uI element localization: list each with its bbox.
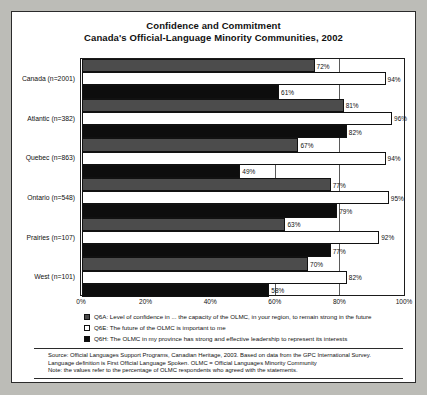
bar-row: 96% <box>82 112 403 125</box>
x-axis-tick-labels: 0%20%40%60%80%100% <box>80 298 405 310</box>
bar-row: 77% <box>82 178 403 191</box>
bar-row: 79% <box>82 204 403 217</box>
bar-value-label: 63% <box>285 221 300 228</box>
bar-row: 77% <box>82 244 403 257</box>
bar-value-label: 58% <box>269 287 284 294</box>
chart-card: Confidence and Commitment Canada's Offic… <box>11 11 416 383</box>
bar-row: 67% <box>82 138 403 151</box>
x-axis-tick-5: 100% <box>396 298 413 305</box>
footnote-block: Source: Official Languages Support Progr… <box>34 348 403 379</box>
y-axis-label-1: Atlantic (n=382) <box>27 114 75 121</box>
x-axis-tick-3: 60% <box>268 298 281 305</box>
bar-q6e-2 <box>82 152 386 165</box>
bar-value-label: 92% <box>379 234 394 241</box>
footnote-source: Source: Official Languages Support Progr… <box>48 352 403 360</box>
bar-q6e-4 <box>82 231 379 244</box>
bar-row: 82% <box>82 271 403 284</box>
footnote-note: Note: the values refer to the percentage… <box>48 367 403 375</box>
bar-q6h-2 <box>82 165 240 178</box>
bar-value-label: 82% <box>347 274 362 281</box>
legend-item-q6e: Q6E: The future of the OLMC is important… <box>84 323 404 333</box>
bar-q6h-4 <box>82 244 331 257</box>
x-axis-tick-2: 40% <box>204 298 217 305</box>
bar-value-label: 77% <box>331 181 346 188</box>
chart-legend: Q6A: Level of confidence in ... the capa… <box>84 312 404 345</box>
bar-row: 58% <box>82 284 403 297</box>
legend-item-q6a: Q6A: Level of confidence in ... the capa… <box>84 312 404 322</box>
bar-group: 63%92%77% <box>82 218 403 258</box>
bar-q6a-2 <box>82 138 298 151</box>
bar-row: 63% <box>82 218 403 231</box>
footnote-definition: Language definition is First Official La… <box>48 360 403 368</box>
legend-label: Q6E: The future of the OLMC is important… <box>94 324 226 331</box>
bar-value-label: 94% <box>386 75 401 82</box>
scanned-page: Confidence and Commitment Canada's Offic… <box>0 0 427 395</box>
bar-q6h-3 <box>82 204 337 217</box>
bar-q6a-3 <box>82 178 331 191</box>
plot-frame: 72%94%61%81%96%82%67%94%49%77%95%79%63%9… <box>80 58 405 296</box>
bar-q6a-4 <box>82 218 285 231</box>
bar-row: 70% <box>82 257 403 270</box>
bar-row: 92% <box>82 231 403 244</box>
page-title: Confidence and Commitment Canada's Offic… <box>12 12 415 44</box>
y-axis-label-2: Quebec (n=863) <box>26 154 75 161</box>
bar-group: 70%82%58% <box>82 257 403 297</box>
bar-row: 49% <box>82 165 403 178</box>
bar-row: 94% <box>82 72 403 85</box>
bar-value-label: 94% <box>386 155 401 162</box>
y-axis-label-5: West (n=101) <box>34 273 75 280</box>
bar-value-label: 81% <box>344 102 359 109</box>
legend-label: Q6A: Level of confidence in ... the capa… <box>94 313 372 320</box>
x-axis-tick-4: 80% <box>333 298 346 305</box>
chart-title-line-2: Canada's Official-Language Minority Comm… <box>12 32 415 44</box>
bar-row: 81% <box>82 99 403 112</box>
bar-value-label: 72% <box>315 62 330 69</box>
bar-value-label: 82% <box>347 128 362 135</box>
bar-group: 77%95%79% <box>82 178 403 218</box>
bar-group: 67%94%49% <box>82 138 403 178</box>
y-axis-label-4: Prairies (n=107) <box>26 233 75 240</box>
y-axis-category-labels: Canada (n=2001)Atlantic (n=382)Quebec (n… <box>12 58 78 296</box>
bar-q6h-1 <box>82 125 347 138</box>
legend-label: Q6H: The OLMC in my province has strong … <box>94 335 347 342</box>
bar-q6a-5 <box>82 257 308 270</box>
legend-swatch-icon <box>84 314 90 320</box>
bar-q6h-0 <box>82 85 279 98</box>
legend-swatch-icon <box>84 336 90 342</box>
bar-value-label: 96% <box>392 115 407 122</box>
bar-group: 81%96%82% <box>82 99 403 139</box>
bar-value-label: 70% <box>308 260 323 267</box>
bar-group: 72%94%61% <box>82 59 403 99</box>
chart-title-line-1: Confidence and Commitment <box>12 20 415 32</box>
bar-row: 94% <box>82 152 403 165</box>
legend-item-q6h: Q6H: The OLMC in my province has strong … <box>84 334 404 344</box>
bar-value-label: 61% <box>279 89 294 96</box>
x-axis-tick-1: 20% <box>139 298 152 305</box>
bar-q6a-0 <box>82 59 315 72</box>
bar-row: 61% <box>82 85 403 98</box>
bar-value-label: 77% <box>331 247 346 254</box>
legend-swatch-icon <box>84 325 90 331</box>
bar-value-label: 79% <box>337 208 352 215</box>
bar-row: 95% <box>82 191 403 204</box>
bar-value-label: 49% <box>240 168 255 175</box>
y-axis-label-3: Ontario (n=548) <box>27 193 75 200</box>
y-axis-label-0: Canada (n=2001) <box>22 74 75 81</box>
bar-q6e-1 <box>82 112 392 125</box>
bar-q6e-5 <box>82 271 347 284</box>
bar-value-label: 95% <box>389 194 404 201</box>
bar-q6a-1 <box>82 99 344 112</box>
bar-row: 82% <box>82 125 403 138</box>
x-axis-tick-0: 0% <box>76 298 85 305</box>
bar-row: 72% <box>82 59 403 72</box>
bar-q6e-3 <box>82 191 389 204</box>
bar-q6h-5 <box>82 284 269 297</box>
bar-q6e-0 <box>82 72 386 85</box>
chart-plot-area: 72%94%61%81%96%82%67%94%49%77%95%79%63%9… <box>80 58 405 296</box>
bar-value-label: 67% <box>298 141 313 148</box>
